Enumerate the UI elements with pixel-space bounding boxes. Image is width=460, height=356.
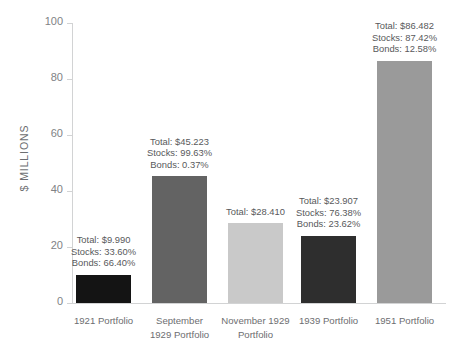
y-tick-mark: [67, 191, 72, 192]
y-tick-mark: [67, 79, 72, 80]
annotation-bonds: Bonds: 12.58%: [345, 43, 460, 55]
y-tick-label: 100: [45, 15, 63, 27]
annotation-total: Total: $45.223: [120, 136, 240, 148]
bar-rect: [301, 236, 356, 303]
bar-chart: $ MILLIONS 020406080100 Total: $9.990Sto…: [0, 0, 460, 356]
x-label-line2: Portfolio: [201, 328, 311, 342]
annotation-stocks: Stocks: 33.60%: [44, 246, 164, 258]
y-axis-label: $ MILLIONS: [18, 88, 30, 228]
y-tick-label: 0: [57, 295, 63, 307]
annotation-bonds: Bonds: 66.40%: [44, 257, 164, 269]
bar-rect: [76, 275, 131, 303]
y-tick-label: 80: [51, 71, 63, 83]
bar-annotation-1: Total: $9.990Stocks: 33.60%Bonds: 66.40%: [44, 234, 164, 269]
y-tick-mark: [67, 23, 72, 24]
annotation-stocks: Stocks: 99.63%: [120, 147, 240, 159]
annotation-bonds: Bonds: 0.37%: [120, 159, 240, 171]
bar-annotation-4: Total: $23.907Stocks: 76.38%Bonds: 23.62…: [269, 195, 389, 230]
bar-annotation-2: Total: $45.223Stocks: 99.63%Bonds: 0.37%: [120, 136, 240, 171]
y-tick-mark: [67, 135, 72, 136]
annotation-stocks: Stocks: 87.42%: [345, 32, 460, 44]
bar-5: [377, 61, 432, 303]
y-tick-mark: [67, 303, 72, 304]
bar-rect: [228, 223, 283, 303]
y-tick-label: 40: [51, 183, 63, 195]
x-label-5: 1951 Portfolio: [350, 314, 460, 328]
x-label-line1: 1951 Portfolio: [350, 314, 460, 328]
annotation-total: Total: $23.907: [269, 195, 389, 207]
bar-3: [228, 223, 283, 303]
bar-4: [301, 236, 356, 303]
x-axis-line: [72, 303, 446, 304]
bar-rect: [377, 61, 432, 303]
bar-annotation-5: Total: $86.482Stocks: 87.42%Bonds: 12.58…: [345, 20, 460, 55]
annotation-total: Total: $86.482: [345, 20, 460, 32]
annotation-total: Total: $9.990: [44, 234, 164, 246]
y-tick-label: 60: [51, 127, 63, 139]
annotation-bonds: Bonds: 23.62%: [269, 218, 389, 230]
annotation-stocks: Stocks: 76.38%: [269, 207, 389, 219]
bar-1: [76, 275, 131, 303]
